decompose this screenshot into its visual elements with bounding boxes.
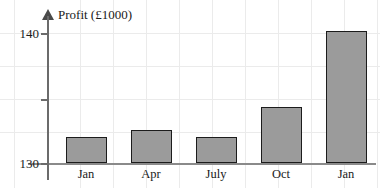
bar-chart: Profit (£1000) 140 130 Jan Apr July Oct … xyxy=(0,0,380,188)
y-axis-title: Profit (£1000) xyxy=(58,7,132,23)
bar-jan-1 xyxy=(66,137,107,163)
y-axis-line xyxy=(47,16,49,180)
grid-line-vertical xyxy=(245,0,246,188)
grid-line-horizontal xyxy=(0,33,380,34)
y-axis-tick-140 xyxy=(41,33,49,35)
x-axis-label-apr: Apr xyxy=(121,167,181,182)
grid-line-horizontal xyxy=(0,132,380,133)
bar-oct xyxy=(261,107,302,163)
y-axis-label-140: 140 xyxy=(5,26,39,42)
y-axis-label-130: 130 xyxy=(5,156,39,172)
y-axis-tick-135 xyxy=(41,99,49,101)
grid-line-vertical xyxy=(311,0,312,188)
grid-line-vertical xyxy=(179,0,180,188)
grid-line-horizontal xyxy=(0,99,380,100)
grid-line-vertical xyxy=(113,0,114,188)
x-axis-label-jan-1: Jan xyxy=(56,167,116,182)
bar-apr xyxy=(131,130,172,163)
grid-line-horizontal xyxy=(0,66,380,67)
x-axis-line xyxy=(28,163,376,165)
y-axis-tick-130 xyxy=(41,163,49,165)
x-axis-label-july: July xyxy=(186,167,246,182)
grid-layer xyxy=(0,0,380,188)
x-axis-label-jan-2: Jan xyxy=(316,167,376,182)
bar-jan-2 xyxy=(326,31,367,163)
x-axis-label-oct: Oct xyxy=(251,167,311,182)
grid-line-vertical xyxy=(377,0,378,188)
bar-july xyxy=(196,137,237,163)
